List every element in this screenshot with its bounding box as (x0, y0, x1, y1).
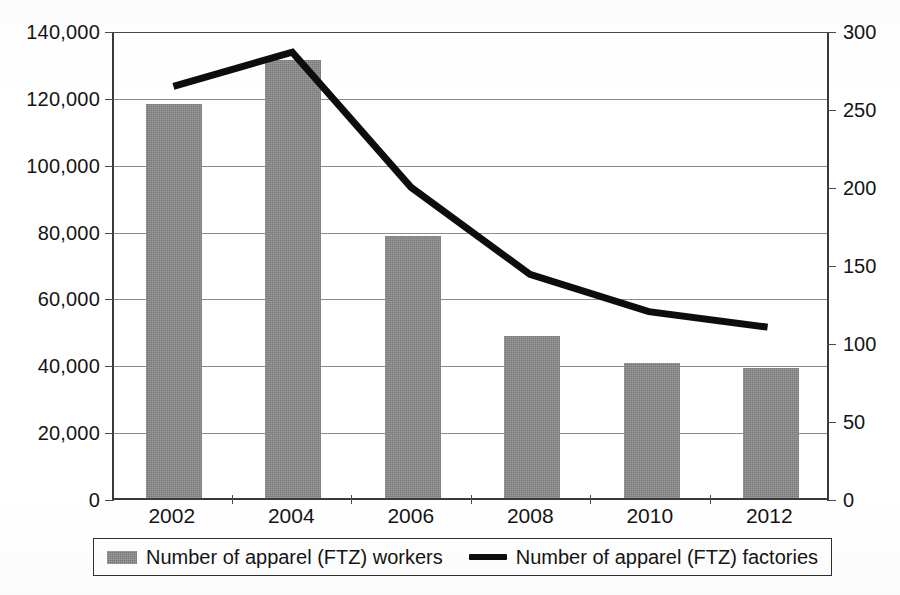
axis-tick-mark (105, 366, 114, 367)
x-axis-tick-label-2012: 2012 (746, 504, 793, 528)
chart-legend: Number of apparel (FTZ) workers Number o… (93, 538, 832, 576)
legend-label-workers: Number of apparel (FTZ) workers (146, 546, 443, 569)
right-axis-tick-label: 100 (843, 333, 876, 356)
left-axis-ticks: 140,000 120,000 100,000 80,000 60,000 40… (0, 32, 100, 500)
left-axis-tick-label: 120,000 (26, 87, 100, 110)
axis-tick-mark (827, 110, 836, 111)
axis-tick-mark (105, 233, 114, 234)
right-axis-tick-label: 300 (843, 21, 876, 44)
left-axis-tick-label: 140,000 (26, 21, 100, 44)
right-axis-tick-label: 0 (843, 489, 854, 512)
axis-tick-mark (827, 266, 836, 267)
plot-area (112, 32, 829, 500)
line-swatch-icon (469, 554, 507, 560)
factories-line-path (173, 52, 767, 327)
axis-tick-mark (105, 433, 114, 434)
right-axis-tick-label: 150 (843, 255, 876, 278)
axis-tick-mark (827, 188, 836, 189)
x-axis-tick-label-2004: 2004 (268, 504, 315, 528)
right-axis-tick-label: 200 (843, 176, 876, 199)
x-axis-tick-label-2002: 2002 (148, 504, 195, 528)
axis-tick-mark (827, 32, 836, 33)
x-axis-tick-label-2006: 2006 (387, 504, 434, 528)
right-axis-tick-label: 250 (843, 99, 876, 122)
axis-tick-mark (827, 422, 836, 423)
left-axis-tick-label: 20,000 (38, 422, 100, 445)
left-axis-tick-label: 60,000 (38, 288, 100, 311)
legend-item-workers: Number of apparel (FTZ) workers (107, 546, 443, 569)
x-axis-tick-mark (590, 495, 591, 504)
axis-tick-mark (105, 32, 114, 33)
legend-item-factories: Number of apparel (FTZ) factories (469, 546, 818, 569)
legend-label-factories: Number of apparel (FTZ) factories (516, 546, 818, 569)
right-axis-ticks: 300 250 200 150 100 50 0 (843, 32, 900, 500)
x-axis-tick-label-2010: 2010 (626, 504, 673, 528)
axis-tick-mark (105, 99, 114, 100)
axis-tick-mark (827, 344, 836, 345)
chart-figure: 140,000 120,000 100,000 80,000 60,000 40… (0, 0, 900, 595)
left-axis-tick-label: 100,000 (26, 154, 100, 177)
bar-swatch-icon (107, 551, 137, 564)
left-axis-tick-label: 40,000 (38, 355, 100, 378)
line-series-factories (114, 32, 827, 498)
axis-tick-mark (105, 166, 114, 167)
x-axis-ticks: 200220042006200820102012 (112, 504, 829, 538)
left-axis-tick-label: 0 (89, 489, 100, 512)
right-axis-tick-label: 50 (843, 410, 865, 433)
axis-tick-mark (105, 299, 114, 300)
x-axis-tick-mark (710, 495, 711, 504)
left-axis-tick-label: 80,000 (38, 221, 100, 244)
x-axis-tick-mark (351, 495, 352, 504)
axis-tick-mark (105, 500, 114, 501)
x-axis-tick-mark (471, 495, 472, 504)
x-axis-tick-mark (232, 495, 233, 504)
x-axis-tick-label-2008: 2008 (507, 504, 554, 528)
axis-tick-mark (827, 500, 836, 501)
